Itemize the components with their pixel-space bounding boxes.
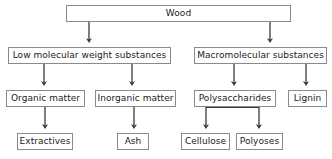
node-ash[interactable]: Ash (117, 133, 149, 150)
node-inorganic-matter-label: Inorganic matter (97, 94, 173, 103)
node-polysaccharides[interactable]: Polysaccharides (194, 90, 276, 107)
node-lignin[interactable]: Lignin (288, 90, 327, 107)
node-extractives[interactable]: Extractives (17, 133, 73, 150)
node-cellulose-label: Cellulose (185, 137, 226, 146)
node-polysaccharides-label: Polysaccharides (199, 94, 272, 103)
node-extractives-label: Extractives (20, 137, 71, 146)
node-macromolecular-substances[interactable]: Macromolecular substances (194, 47, 327, 64)
node-low-molecular-weight-substances-label: Low molecular weight substances (13, 51, 167, 60)
node-ash-label: Ash (125, 137, 142, 146)
edge-polysaccharides-split (206, 107, 259, 127)
node-low-molecular-weight-substances[interactable]: Low molecular weight substances (8, 47, 171, 64)
node-organic-matter[interactable]: Organic matter (6, 90, 85, 107)
node-wood[interactable]: Wood (66, 5, 291, 22)
wood-composition-flowchart: Wood Low molecular weight substances Mac… (0, 0, 332, 159)
node-polyoses[interactable]: Polyoses (236, 133, 283, 150)
node-organic-matter-label: Organic matter (11, 94, 80, 103)
node-macromolecular-substances-label: Macromolecular substances (197, 51, 324, 60)
node-polyoses-label: Polyoses (240, 137, 279, 146)
node-wood-label: Wood (166, 9, 191, 18)
node-inorganic-matter[interactable]: Inorganic matter (95, 90, 176, 107)
node-lignin-label: Lignin (294, 94, 321, 103)
node-cellulose[interactable]: Cellulose (181, 133, 230, 150)
